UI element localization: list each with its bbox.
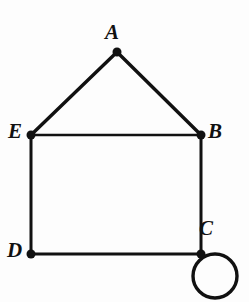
vertex-label-E: E [8, 121, 22, 142]
vertex-label-D: D [7, 240, 22, 261]
vertex-label-B: B [208, 121, 222, 142]
edge-layer [31, 52, 201, 254]
vertex-dot-A [113, 48, 122, 57]
graph-canvas [0, 0, 249, 302]
vertex-label-C: C [199, 218, 213, 239]
self-loop-C [193, 254, 237, 298]
vertex-dot-D [27, 250, 36, 259]
vertex-layer [27, 48, 206, 259]
self-loop-layer [193, 254, 237, 298]
edge-A-E [31, 52, 117, 135]
graph-figure: A E B D C [0, 0, 249, 302]
vertex-dot-E [27, 131, 36, 140]
vertex-dot-B [197, 131, 206, 140]
vertex-dot-C [197, 250, 206, 259]
edge-A-B [117, 52, 201, 135]
vertex-label-A: A [105, 22, 119, 43]
